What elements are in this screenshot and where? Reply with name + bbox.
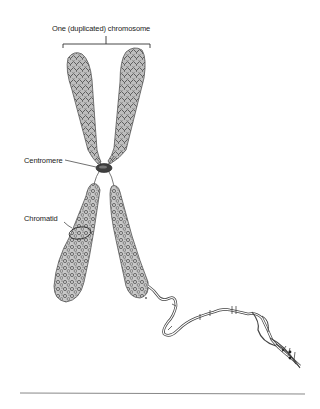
bracket [63,36,150,48]
chromosome-title-label: One (duplicated) chromosome [52,24,150,33]
chromatid-upper-left [67,53,101,164]
chromatid-upper-right [108,48,145,164]
chromatid-lower-right [110,186,148,298]
chromatid-label: Chromatid [24,214,58,223]
centromere-leader-line [65,160,96,167]
dna-double-helix [148,286,300,368]
chromatid-lower-left [54,184,100,302]
centromere-label: Centromere [24,156,63,165]
chromatid-leader-line [64,222,72,228]
chromosome-diagram [0,0,320,409]
horizontal-rule [20,393,305,394]
